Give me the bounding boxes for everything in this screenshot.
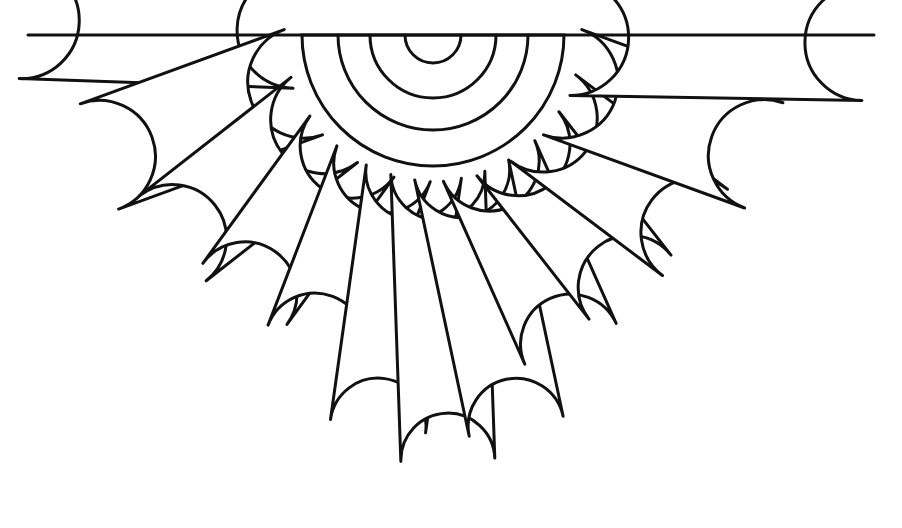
fan-line-drawing (0, 0, 902, 528)
drawing-canvas (0, 0, 902, 528)
